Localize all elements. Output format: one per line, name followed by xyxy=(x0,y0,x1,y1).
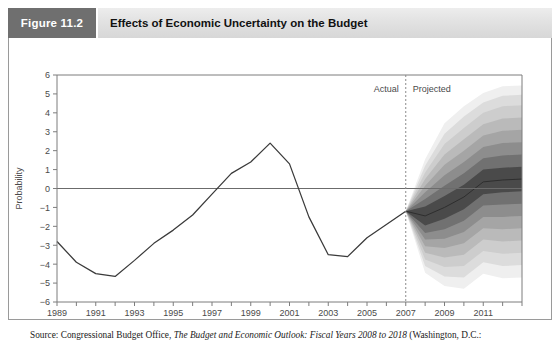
figure-frame xyxy=(8,38,552,320)
source-suffix: (Washington, D.C.: xyxy=(407,330,481,340)
source-note: Source: Congressional Budget Office, The… xyxy=(30,330,552,341)
figure-header: Figure 11.2 Effects of Economic Uncertai… xyxy=(8,8,552,38)
source-publication-title: The Budget and Economic Outlook: Fiscal … xyxy=(174,330,407,340)
figure-title: Effects of Economic Uncertainty on the B… xyxy=(98,8,552,38)
figure-number-tag: Figure 11.2 xyxy=(8,8,98,38)
source-prefix: Source: Congressional Budget Office, xyxy=(30,330,174,340)
figure-page: Figure 11.2 Effects of Economic Uncertai… xyxy=(0,0,560,350)
